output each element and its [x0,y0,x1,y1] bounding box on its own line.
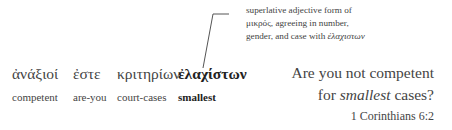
greek-word-4: ἐλαχίστων [178,65,247,83]
greek-word-2: ἐστε [73,65,101,83]
gloss-word-3: court-cases [117,91,166,103]
gloss-word-1: competent [12,91,58,103]
annotation-line-1: superlative adjective form of [246,4,446,17]
translation-text: cases? [391,86,434,103]
annotation-line-2: μικρός, agreeing in number, [246,17,446,30]
annotation-line-3: gender, and case with ἐλαχιστων [246,30,446,43]
grammar-annotation: superlative adjective form of μικρός, ag… [246,4,446,43]
gloss-word-4: smallest [178,91,216,103]
annotation-greek-word: ἐλαχιστων [328,31,365,41]
translation-line-1: Are you not competent [292,64,434,82]
greek-word-3: κριτηρίων [117,65,180,83]
greek-word-1: ἀνάξιοί [12,65,58,83]
scripture-reference: 1 Corinthians 6:2 [351,109,434,124]
translation-text: for [318,86,340,103]
annotation-line-3-text: gender, and case with [246,31,325,41]
gloss-word-2: are-you [73,91,107,103]
translation-emphasis: smallest [340,86,391,103]
translation-line-2: for smallest cases? [318,86,434,104]
